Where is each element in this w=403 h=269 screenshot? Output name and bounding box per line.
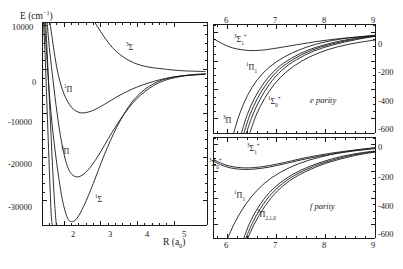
- e-x-tick-7: 7: [273, 16, 277, 25]
- e-y-tick-minus200: -200: [378, 68, 394, 77]
- f-x-tick-9: 9: [371, 241, 375, 250]
- e-x-tick-6: 6: [224, 16, 228, 25]
- x-tick-2: 2: [71, 230, 75, 239]
- e-y-tick-minus600: -600: [378, 125, 394, 134]
- f-curve-label-1pi1: 1Π1: [234, 192, 245, 200]
- e-y-tick-minus400: -400: [378, 97, 394, 106]
- f-y-tick-minus600: -600: [378, 230, 394, 239]
- e-parity-label: e parity: [310, 96, 336, 105]
- e-curve-label-1sigma0plus: 1Σ0+: [268, 98, 281, 106]
- f-curve-label-3sigma0plus: 3Σ0+: [209, 160, 222, 168]
- y-tick-minus10000: -10000: [8, 118, 32, 127]
- e-curve-label-3pi: 3Π: [223, 117, 231, 125]
- f-x-tick-8: 8: [322, 241, 326, 250]
- x-axis-title: R (a0): [163, 238, 185, 248]
- curve-label-3sigma: 3Σ: [126, 44, 133, 52]
- curve-label-1sigma: 1Σ: [95, 196, 102, 204]
- x-tick-5: 5: [182, 230, 186, 239]
- curve-label-1pi: 1Π: [64, 86, 72, 94]
- f-y-tick-minus400: -400: [378, 202, 394, 211]
- f-y-tick-0: 0: [378, 143, 382, 152]
- y-tick-minus30000: -30000: [8, 203, 32, 212]
- plot-canvas: [0, 0, 403, 269]
- e-x-tick-8: 8: [322, 16, 326, 25]
- curve-label-3pi: 3Π: [61, 148, 69, 156]
- e-curve-label-1pi1: 1Π1: [246, 64, 257, 72]
- x-tick-4: 4: [145, 230, 149, 239]
- f-y-tick-minus200: -200: [378, 173, 394, 182]
- f-x-tick-7: 7: [273, 241, 277, 250]
- y-tick-0: 0: [32, 78, 36, 87]
- e-y-tick-0: 0: [378, 40, 382, 49]
- x-tick-3: 3: [108, 230, 112, 239]
- y-tick-10000: 10000: [12, 23, 33, 32]
- y-axis-title: E (cm−1): [20, 12, 53, 22]
- f-curve-label-3sigma1plus: 3Σ1+: [247, 145, 260, 153]
- f-x-tick-6: 6: [224, 241, 228, 250]
- e-curve-label-3sigma1plus: 3Σ1+: [234, 36, 247, 44]
- y-tick-minus20000: -20000: [8, 160, 32, 169]
- figure-root: E (cm−1) R (a0) 10000 0 -10000 -20000 -3…: [0, 0, 403, 269]
- f-parity-label: f parity: [310, 202, 335, 211]
- e-x-tick-9: 9: [371, 16, 375, 25]
- f-curve-label-3pi210: 3Π2,1,0: [257, 211, 276, 219]
